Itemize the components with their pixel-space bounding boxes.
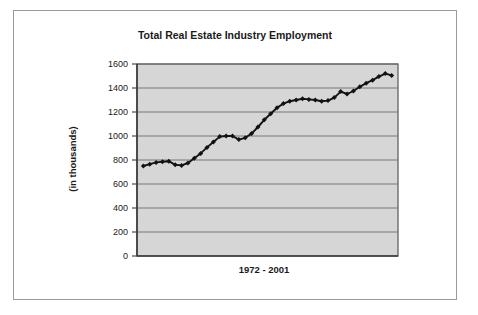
y-tick-label: 400 — [113, 203, 128, 213]
x-axis-title: 1972 - 2001 — [239, 264, 290, 275]
y-tick-label: 800 — [113, 155, 128, 165]
plot-area: 02004006008001000120014001600 — [108, 59, 398, 261]
chart-title: Total Real Estate Industry Employment — [138, 29, 333, 41]
y-tick-label: 600 — [113, 179, 128, 189]
y-tick-label: 1200 — [108, 107, 128, 117]
y-tick-label: 0 — [123, 251, 128, 261]
y-tick-label: 1400 — [108, 83, 128, 93]
y-tick-label: 200 — [113, 227, 128, 237]
y-tick-label: 1000 — [108, 131, 128, 141]
employment-line-chart: Total Real Estate Industry Employment (i… — [14, 11, 456, 299]
figure-frame: Total Real Estate Industry Employment (i… — [13, 10, 457, 300]
y-tick-label: 1600 — [108, 59, 128, 69]
y-axis-title: (in thousands) — [67, 126, 78, 191]
